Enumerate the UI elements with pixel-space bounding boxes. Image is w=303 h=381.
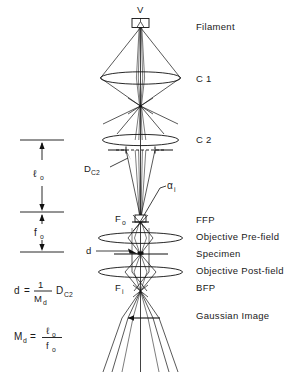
front-focal-point-sublabel: o xyxy=(122,219,126,226)
scale-bar-lower-label: f xyxy=(34,227,37,238)
convergence-angle-sublabel: i xyxy=(174,186,176,193)
c2-aperture-sublabel: C2 xyxy=(91,169,100,176)
right-label-list: Filament C 1 C 2 FFP Objective Pre-field… xyxy=(196,21,284,321)
label-c2-aperture: D C2 xyxy=(84,158,128,176)
formula-demagnification: M d = ℓ o f o xyxy=(14,325,62,353)
right-label-objective-post-field: Objective Post-field xyxy=(196,265,284,276)
formula1-factor: D xyxy=(56,285,63,296)
formula1-denominator: M xyxy=(34,293,42,304)
c2-aperture-label: D xyxy=(84,163,91,174)
right-label-bfp: BFP xyxy=(196,282,215,293)
formula1-equals: = xyxy=(24,285,30,296)
formula2-denominator: f xyxy=(46,340,49,351)
right-label-gaussian-image: Gaussian Image xyxy=(196,310,269,321)
convergence-angle-label: α xyxy=(167,180,173,191)
formula1-numerator: 1 xyxy=(38,279,43,290)
formula1-lhs: d xyxy=(14,285,20,296)
formula2-equals: = xyxy=(30,331,36,342)
formula1-denominator-sub: d xyxy=(43,299,47,306)
formula-probe-diameter: d = 1 M d D C2 xyxy=(14,279,73,306)
front-focal-point-label: F xyxy=(115,213,121,224)
right-label-filament: Filament xyxy=(196,21,235,32)
formula2-numerator: ℓ xyxy=(46,325,50,336)
formula2-lhs-sub: d xyxy=(23,337,27,344)
formula2-denominator-sub: o xyxy=(52,346,56,353)
label-back-focal-point: F i xyxy=(115,282,124,295)
ray-diagram-figure: V D C2 α i F o d F i Filament C 1 C 2 FF… xyxy=(0,0,303,381)
right-label-specimen: Specimen xyxy=(196,248,241,259)
right-label-c2: C 2 xyxy=(196,134,212,145)
scale-bar-lower-sublabel: o xyxy=(40,233,44,240)
right-label-c1: C 1 xyxy=(196,73,212,84)
label-front-focal-point: F o xyxy=(115,213,126,226)
scale-bar: ℓ o f o xyxy=(20,140,64,252)
formula2-lhs: M xyxy=(14,331,22,342)
scale-bar-upper-sublabel: o xyxy=(40,174,44,181)
scale-bar-upper-label: ℓ xyxy=(33,168,37,179)
back-focal-point-label: F xyxy=(115,282,121,293)
label-source-v: V xyxy=(137,4,144,15)
formula1-factor-sub: C2 xyxy=(64,291,73,298)
right-label-ffp: FFP xyxy=(196,214,215,225)
filament-source-symbol xyxy=(132,19,149,28)
back-focal-point-sublabel: i xyxy=(122,288,124,295)
source-label: V xyxy=(137,4,144,15)
right-label-objective-pre-field: Objective Pre-field xyxy=(196,231,279,242)
probe-diameter-label: d xyxy=(86,245,91,256)
formula2-numerator-sub: o xyxy=(52,331,56,338)
